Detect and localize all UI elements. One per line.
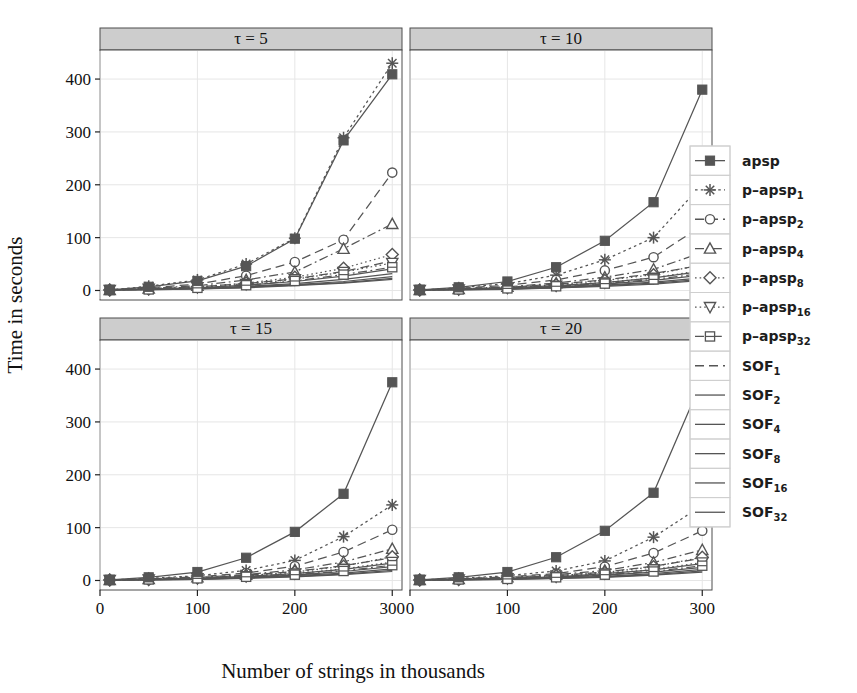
legend-label: apsp xyxy=(742,153,780,169)
y-tick-label: 0 xyxy=(83,281,92,300)
legend-marker-circle-icon xyxy=(705,215,714,224)
y-tick-label: 300 xyxy=(66,123,92,142)
x-tick-label: 200 xyxy=(592,599,618,618)
panel-tau5: τ = 5 xyxy=(100,28,402,300)
y-tick-label: 100 xyxy=(66,519,92,538)
x-tick-label: 200 xyxy=(282,599,308,618)
x-tick-label: 0 xyxy=(406,599,415,618)
y-tick-label: 0 xyxy=(83,571,92,590)
y-tick-label: 400 xyxy=(66,360,92,379)
y-tick-label: 200 xyxy=(66,176,92,195)
x-tick-label: 100 xyxy=(495,599,521,618)
legend-marker-square-open-icon xyxy=(705,332,714,341)
y-tick-label: 300 xyxy=(66,413,92,432)
x-tick-label: 300 xyxy=(690,599,716,618)
chart-figure: τ = 5τ = 10τ = 15τ = 20 0100200300400010… xyxy=(0,0,857,693)
x-tick-label: 300 xyxy=(380,599,406,618)
panel-strip-label: τ = 5 xyxy=(234,29,267,48)
y-tick-label: 100 xyxy=(66,229,92,248)
y-tick-label: 400 xyxy=(66,70,92,89)
x-tick-label: 0 xyxy=(96,599,105,618)
panel-tau15: τ = 15 xyxy=(100,318,402,590)
panel-tau20: τ = 20 xyxy=(410,318,712,590)
legend-marker-square-filled-icon xyxy=(705,156,714,165)
y-tick-label: 200 xyxy=(66,466,92,485)
panel-strip-label: τ = 15 xyxy=(230,319,272,338)
x-tick-label: 100 xyxy=(185,599,211,618)
x-axis-title: Number of strings in thousands xyxy=(221,659,485,683)
y-axis-title: Time in seconds xyxy=(3,237,27,374)
panel-strip-label: τ = 20 xyxy=(540,319,582,338)
chart-svg: τ = 5τ = 10τ = 15τ = 20 0100200300400010… xyxy=(0,0,857,693)
legend-marker-asterisk-icon xyxy=(704,184,716,196)
panel-tau10: τ = 10 xyxy=(410,28,712,300)
panel-strip-label: τ = 10 xyxy=(540,29,582,48)
